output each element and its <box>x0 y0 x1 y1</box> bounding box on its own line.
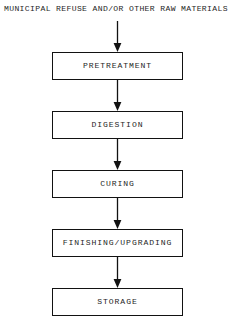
process-box-curing: CURING <box>52 170 183 198</box>
diagram-input-label: MUNICIPAL REFUSE AND/OR OTHER RAW MATERI… <box>4 3 242 14</box>
connector-arrow-curing-to-finishing <box>0 198 244 229</box>
process-box-digestion: DIGESTION <box>52 111 183 139</box>
process-box-label: DIGESTION <box>92 120 144 130</box>
process-box-storage: STORAGE <box>52 288 183 316</box>
connector-arrow-input-to-pretreatment <box>0 21 244 52</box>
connector-arrow-finishing-to-storage <box>0 257 244 288</box>
process-box-label: FINISHING/UPGRADING <box>63 238 172 248</box>
connector-arrow-digestion-to-curing <box>0 139 244 170</box>
flowchart-diagram: MUNICIPAL REFUSE AND/OR OTHER RAW MATERI… <box>0 0 244 323</box>
process-box-finishing-upgrading: FINISHING/UPGRADING <box>52 229 183 257</box>
connector-arrow-pretreatment-to-digestion <box>0 80 244 111</box>
process-box-pretreatment: PRETREATMENT <box>52 52 183 80</box>
process-box-label: STORAGE <box>97 297 137 307</box>
process-box-label: CURING <box>100 179 135 189</box>
process-box-label: PRETREATMENT <box>83 61 152 71</box>
